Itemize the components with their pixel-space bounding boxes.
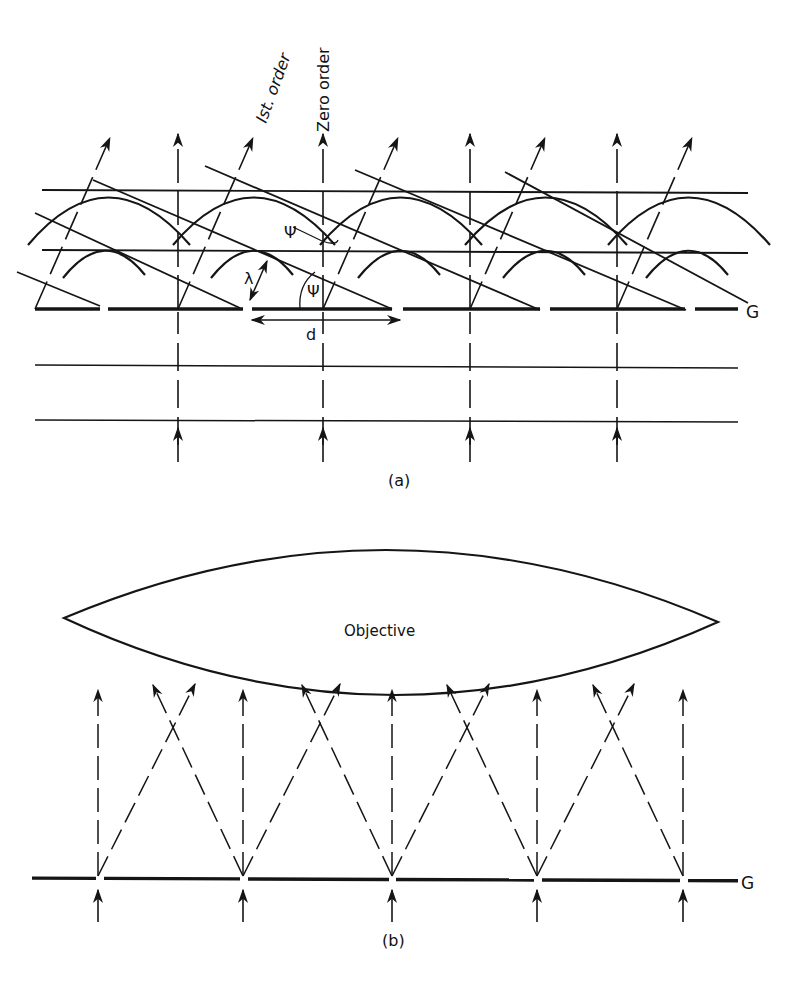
- first-order-wavefront: [35, 213, 240, 308]
- minus-first-order-ray: [302, 685, 392, 876]
- diagram-canvas: Zero order Ist. order G Ψ Ψ λ d (a) Obje…: [0, 0, 812, 989]
- grating-spacing-d-label: d: [306, 325, 316, 344]
- minus-first-order-ray: [447, 685, 537, 876]
- wavelet-arc-large: [173, 198, 335, 246]
- panel-b-caption: (b): [382, 931, 405, 950]
- grating-bar: [542, 880, 680, 881]
- psi-angle-label-lower: Ψ: [307, 282, 320, 301]
- wavelet-arc-small: [63, 251, 145, 278]
- wavelength-lambda-label: λ: [244, 269, 253, 288]
- diffraction-figure: Zero order Ist. order G Ψ Ψ λ d (a) Obje…: [0, 0, 812, 989]
- incident-wavefront: [35, 365, 738, 368]
- incident-wavefront: [35, 420, 738, 422]
- grating-g-panel-a: [35, 309, 738, 320]
- plus-first-order-ray: [392, 684, 489, 876]
- objective-label: Objective: [344, 622, 415, 640]
- grating-label-b: G: [741, 873, 754, 893]
- plus-first-order-ray: [537, 684, 634, 876]
- incident-plane-waves: [35, 365, 738, 422]
- plus-first-order-ray: [98, 684, 195, 876]
- grating-bar: [396, 879, 534, 880]
- psi-angle-label-upper: Ψ: [284, 223, 297, 242]
- wavelet-arc-large: [465, 198, 627, 246]
- diffracted-rays-to-objective: [98, 684, 683, 876]
- first-order-ray: [178, 138, 253, 309]
- plus-first-order-ray: [243, 684, 340, 876]
- grating-g-panel-b: [32, 878, 738, 922]
- grating-label-a: G: [746, 302, 759, 322]
- zero-order-wavefront: [42, 190, 748, 193]
- zero-order-label: Zero order: [314, 47, 333, 132]
- panel-a-caption: (a): [388, 471, 410, 490]
- minus-first-order-ray: [153, 685, 243, 876]
- first-order-wavefront: [17, 272, 100, 306]
- grating-bar: [248, 879, 389, 880]
- wavelet-arc-small: [503, 251, 585, 278]
- wavelet-arc-large: [320, 198, 482, 246]
- minus-first-order-ray: [593, 685, 683, 876]
- panel-b-objective-imaging: Objective G (b): [32, 550, 754, 950]
- wavelet-arc-large: [608, 198, 770, 246]
- grating-bar: [104, 878, 240, 879]
- first-order-label: Ist. order: [252, 49, 295, 125]
- first-order-rays: [35, 138, 692, 309]
- wavelet-arc-small: [358, 251, 440, 278]
- panel-a-grating-diffraction: Zero order Ist. order G Ψ Ψ λ d (a): [17, 47, 770, 490]
- diffracted-wavefronts: [17, 166, 748, 310]
